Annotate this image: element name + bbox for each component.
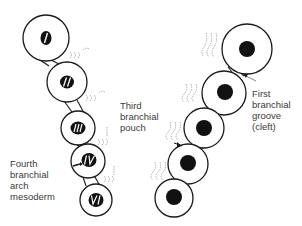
segment-1 [222, 24, 272, 74]
label-line: arch [10, 180, 55, 191]
label-line: branchial [120, 111, 159, 122]
label-line: Fourth [10, 158, 55, 169]
segment-4 [168, 144, 208, 184]
segment-5 [155, 179, 193, 217]
arch-III [61, 111, 95, 145]
groove-arrow-icon [243, 74, 256, 81]
arch-VI [80, 184, 112, 216]
arch-IV [71, 144, 105, 178]
fourth-arch-label: Fourth branchial arch mesoderm [10, 158, 55, 202]
arch-II [47, 62, 87, 102]
label-line: pouch [120, 122, 159, 133]
label-line: branchial [10, 169, 55, 180]
segment-3 [184, 108, 224, 148]
label-line: Third [120, 100, 159, 111]
first-groove-label: First branchial groove (cleft) [252, 88, 291, 132]
third-pouch-label: Third branchial pouch [120, 100, 159, 133]
label-line: First [252, 88, 291, 99]
label-line: (cleft) [252, 121, 291, 132]
arch-I [23, 15, 69, 61]
label-line: branchial [252, 99, 291, 110]
label-line: groove [252, 110, 291, 121]
label-line: mesoderm [10, 191, 55, 202]
